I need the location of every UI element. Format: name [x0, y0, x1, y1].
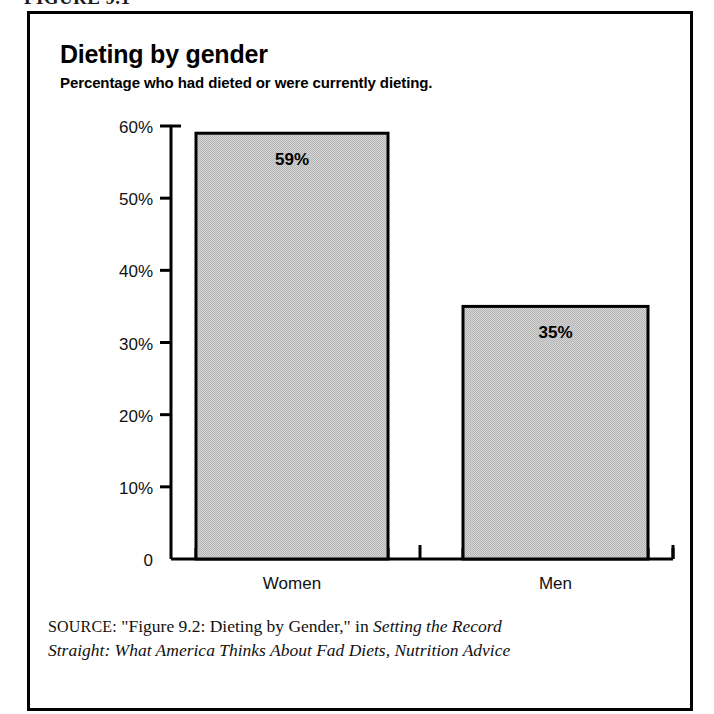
bar-chart-plot: 60%50%40%30%20%10%059%Women35%Men [30, 14, 696, 714]
bar [463, 306, 648, 559]
figure-number: FIGURE 9.1 [24, 0, 130, 9]
bar-value-label: 59% [275, 150, 309, 169]
y-axis-tick-label: 60% [119, 118, 153, 137]
y-axis-tick-label: 30% [119, 335, 153, 354]
y-axis-tick-label: 10% [119, 479, 153, 498]
y-axis-tick-label: 0 [144, 551, 153, 570]
bar-value-label: 35% [538, 323, 572, 342]
x-axis-category-label: Women [263, 574, 321, 593]
source-citation-text: "Figure 9.2: Dieting by Gender," in [117, 616, 373, 636]
y-axis-tick-label: 50% [119, 190, 153, 209]
source-note: SOURCE: "Figure 9.2: Dieting by Gender,"… [48, 615, 684, 661]
source-publication-title-line2: Straight: What America Thinks About Fad … [48, 640, 510, 660]
figure-frame: Dieting by gender Percentage who had die… [27, 11, 693, 711]
source-publication-title-line1: Setting the Record [373, 616, 502, 636]
y-axis-tick-label: 20% [119, 407, 153, 426]
y-axis-tick-label: 40% [119, 262, 153, 281]
source-label: SOURCE: [48, 618, 117, 635]
x-axis-category-label: Men [539, 574, 572, 593]
bar [196, 133, 388, 559]
